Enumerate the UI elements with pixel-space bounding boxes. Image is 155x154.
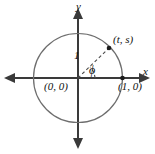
origin-label: (0, 0) bbox=[44, 81, 68, 92]
x-axis-label: x bbox=[143, 66, 148, 77]
x-intercept-label: (1, 0) bbox=[118, 81, 142, 92]
radius-length-label: 1 bbox=[74, 50, 80, 61]
angle-phi-label: ϕ bbox=[89, 64, 95, 76]
y-axis-label: y bbox=[76, 1, 81, 12]
unit-circle-figure: y x (t, s) (0, 0) (1, 0) 1 ϕ bbox=[0, 0, 155, 154]
point-ts-label: (t, s) bbox=[113, 34, 133, 45]
point-ts-dot bbox=[107, 46, 112, 51]
unit-circle-diagram bbox=[0, 0, 155, 154]
arrow-down-icon bbox=[73, 138, 83, 149]
arrow-left-icon bbox=[4, 73, 15, 83]
